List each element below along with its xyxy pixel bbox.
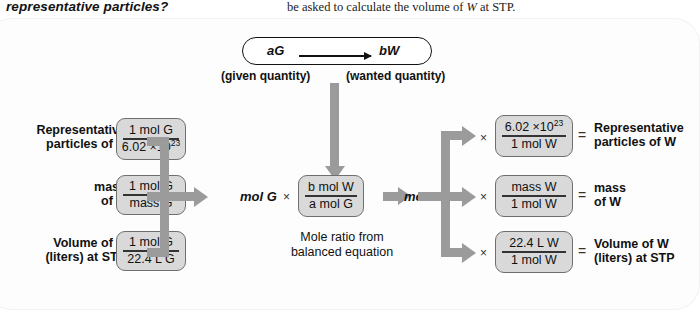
right-row-2-label: Volume of W (liters) at STP: [594, 238, 675, 265]
left-merge-top-elbow: [160, 137, 168, 146]
right-row-0-numerator: 6.02 ×1023: [503, 121, 565, 135]
right-row-0-equals: =: [578, 127, 586, 143]
right-row-1-numerator: mass W: [509, 181, 558, 195]
left-row-1-label: mass of G: [8, 181, 126, 208]
wanted-term: bW: [379, 43, 399, 58]
right-row-2-label-line1: Volume of W: [594, 237, 669, 251]
center-operator: ×: [283, 190, 290, 204]
mole-ratio-numerator: b mol W: [306, 181, 356, 195]
top-right-suffix: at STP.: [477, 0, 516, 14]
wanted-quantity-label: (wanted quantity): [346, 69, 445, 83]
right-row-0-numerator-exponent: 23: [554, 118, 563, 128]
right-row-2-numerator-base: 22.4 L W: [509, 236, 559, 250]
left-row-0-label-line1: Representative: [36, 123, 126, 137]
right-row-0-label-line2: particles of W: [594, 135, 676, 149]
right-row-2-denominator: 1 mol W: [509, 253, 559, 267]
right-split-arrow-0-icon: [441, 131, 463, 140]
right-row-2-equals: =: [578, 243, 586, 259]
right-split-arrow-2-icon: [441, 248, 463, 257]
left-row-0-label-line2: particles of G: [46, 137, 126, 151]
left-row-0-label: Representative particles of G: [8, 124, 126, 151]
right-row-1-label-line2: of W: [594, 195, 621, 209]
given-term: aG: [267, 43, 284, 58]
right-arrow-icon: [299, 55, 371, 57]
mole-ratio-caption-line1: Mole ratio from: [300, 230, 383, 244]
right-row-0-numerator-base: 6.02 ×10: [505, 120, 554, 134]
mol-given-text: mol G: [240, 189, 277, 204]
page-text-top-left: representative particles?: [6, 0, 168, 14]
mole-ratio-denominator: a mol G: [307, 197, 355, 211]
right-row-0-operator: ×: [480, 131, 487, 145]
right-row-1-numerator-base: mass W: [511, 180, 556, 194]
right-row-0-label: Representative particles of W: [594, 122, 684, 149]
left-row-2-label: Volume of G (liters) at STP: [8, 237, 126, 264]
left-row-2-label-line2: (liters) at STP: [45, 250, 126, 264]
mole-ratio-box: b mol W a mol G: [298, 175, 364, 217]
mole-ratio-out-arrow-icon: [383, 192, 399, 201]
right-row-1-denominator: 1 mol W: [509, 197, 559, 211]
right-row-1-label: mass of W: [594, 182, 626, 209]
right-row-0-denominator: 1 mol W: [509, 137, 559, 151]
right-row-2-label-line2: (liters) at STP: [594, 251, 675, 265]
right-row-0-label-line1: Representative: [594, 121, 684, 135]
mole-ratio-caption: Mole ratio from balanced equation: [262, 230, 422, 260]
left-merge-bottom-elbow: [160, 248, 168, 257]
right-row-2-numerator: 22.4 L W: [507, 237, 561, 251]
right-row-0-conversion-factor: 6.02 ×1023 1 mol W: [495, 115, 573, 157]
right-split-arrow-1-icon: [441, 192, 463, 201]
given-quantity-label: (given quantity): [221, 69, 310, 83]
balanced-equation-pill: aG bW: [242, 37, 432, 65]
top-right-prefix: be asked to calculate the volume of: [287, 0, 466, 14]
down-arrow-icon: [330, 83, 339, 167]
left-row-0-denominator-exponent: 23: [171, 137, 180, 147]
page-text-top-right: be asked to calculate the volume of W at…: [287, 0, 515, 15]
right-row-1-equals: =: [578, 187, 586, 203]
left-merge-arrow-icon: [165, 192, 195, 201]
right-row-1-label-line1: mass: [594, 181, 626, 195]
mole-ratio-caption-line2: balanced equation: [291, 245, 393, 259]
right-row-2-operator: ×: [480, 246, 487, 260]
top-right-variable: W: [466, 0, 476, 14]
mol-given-label: mol G: [240, 189, 277, 204]
right-row-1-operator: ×: [480, 190, 487, 204]
right-row-2-conversion-factor: 22.4 L W 1 mol W: [495, 231, 573, 273]
right-row-1-conversion-factor: mass W 1 mol W: [495, 175, 573, 217]
